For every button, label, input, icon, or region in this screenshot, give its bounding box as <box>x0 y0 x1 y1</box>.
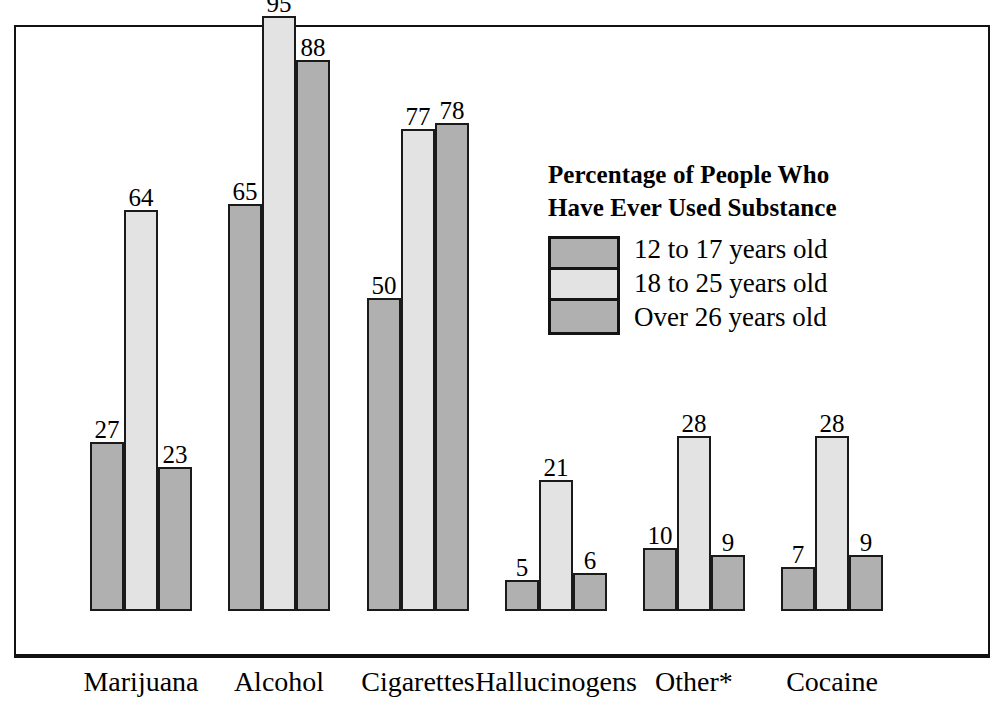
category-label: Cigarettes <box>361 662 475 702</box>
bar-value-label: 9 <box>860 530 873 557</box>
bar-value-label: 10 <box>648 523 673 550</box>
legend-label-18-to-25: 18 to 25 years old <box>634 266 948 300</box>
bar: 95 <box>262 16 296 611</box>
bar-value-label: 88 <box>301 35 326 62</box>
bar: 6 <box>573 573 607 611</box>
bar-value-label: 28 <box>820 411 845 438</box>
bar-value-label: 23 <box>163 442 188 469</box>
bar: 88 <box>296 60 330 611</box>
bar-value-label: 64 <box>129 185 154 212</box>
bar: 64 <box>124 210 158 611</box>
bar-value-label: 28 <box>682 411 707 438</box>
category-label: Other* <box>655 662 733 702</box>
bar: 50 <box>367 298 401 611</box>
bar-value-label: 77 <box>406 104 431 131</box>
legend-swatch-18-to-25 <box>551 270 617 301</box>
legend-swatch-over-26 <box>551 301 617 332</box>
bar-value-label: 5 <box>516 555 529 582</box>
bar-group: 659588 <box>228 11 330 611</box>
bar: 21 <box>539 480 573 611</box>
bar-value-label: 50 <box>372 273 397 300</box>
bar-value-label: 65 <box>233 179 258 206</box>
bar: 9 <box>849 555 883 611</box>
bar: 9 <box>711 555 745 611</box>
bar: 7 <box>781 567 815 611</box>
bar-value-label: 27 <box>95 417 120 444</box>
legend-label-over-26: Over 26 years old <box>634 300 948 334</box>
bar: 5 <box>505 580 539 611</box>
bar-value-label: 21 <box>544 455 569 482</box>
legend-title-line-1: Percentage of People Who <box>548 158 948 191</box>
bar: 23 <box>158 467 192 611</box>
bar-group: 276423 <box>90 11 192 611</box>
category-label: Marijuana <box>83 662 198 702</box>
bar-chart: 2764236595885077785216102897289 Marijuan… <box>0 0 1000 705</box>
x-axis-category-labels: MarijuanaAlcoholCigarettesHallucinogensO… <box>0 662 1000 705</box>
category-label: Cocaine <box>786 662 878 702</box>
bar: 27 <box>90 442 124 611</box>
legend-label-12-to-17: 12 to 17 years old <box>634 232 948 266</box>
legend-swatch-12-to-17 <box>551 239 617 270</box>
bar-value-label: 95 <box>267 0 292 18</box>
legend-label-list: 12 to 17 years old 18 to 25 years old Ov… <box>634 232 948 334</box>
bar: 78 <box>435 123 469 611</box>
bar: 77 <box>401 129 435 611</box>
bar-value-label: 78 <box>440 98 465 125</box>
bar-value-label: 6 <box>584 548 597 575</box>
legend-body: 12 to 17 years old 18 to 25 years old Ov… <box>548 232 948 335</box>
bar: 28 <box>815 436 849 611</box>
bar: 65 <box>228 204 262 611</box>
legend-swatch-stack <box>548 236 620 335</box>
category-label: Hallucinogens <box>475 662 637 702</box>
legend: Percentage of People Who Have Ever Used … <box>548 158 948 335</box>
bar: 10 <box>643 548 677 611</box>
legend-title: Percentage of People Who Have Ever Used … <box>548 158 948 224</box>
category-label: Alcohol <box>234 662 324 702</box>
bar: 28 <box>677 436 711 611</box>
bar-value-label: 9 <box>722 530 735 557</box>
bar-group: 507778 <box>367 11 469 611</box>
bar-value-label: 7 <box>792 542 805 569</box>
legend-title-line-2: Have Ever Used Substance <box>548 191 948 224</box>
